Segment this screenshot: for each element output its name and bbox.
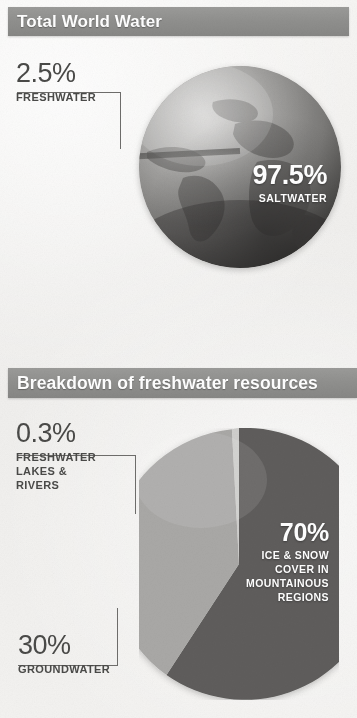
page-title-breakdown-freshwater: Breakdown of freshwater resources xyxy=(8,373,318,394)
page-title-total-world-water: Total World Water xyxy=(8,12,162,32)
callout-freshwater-caption: FRESHWATER xyxy=(16,91,96,105)
callout-groundwater: 30% GROUNDWATER xyxy=(18,632,110,677)
callout-lakes-caption-line2: LAKES & xyxy=(16,465,96,479)
callout-lakes-percent: 0.3% xyxy=(16,420,96,447)
pie-chart-freshwater-breakdown: 70% ICE & SNOW COVER IN MOUNTAINOUS REGI… xyxy=(139,428,339,700)
callout-groundwater-percent: 30% xyxy=(18,632,110,659)
section-total-world-water: Total World Water 2.5% FRESHWATER xyxy=(0,0,357,340)
pie-slices xyxy=(139,428,339,700)
callout-lakes-caption-line3: RIVERS xyxy=(16,479,96,493)
callout-freshwater-percent: 2.5% xyxy=(16,60,96,87)
callout-lakes-caption-line1: FRESHWATER xyxy=(16,451,96,465)
globe-chart-total-world-water: 97.5% SALTWATER xyxy=(139,66,341,268)
header-band-total-world-water: Total World Water xyxy=(8,7,349,36)
header-band-breakdown-freshwater: Breakdown of freshwater resources xyxy=(8,368,357,398)
callout-freshwater: 2.5% FRESHWATER xyxy=(16,60,96,105)
globe-continents xyxy=(139,66,341,268)
callout-lakes-caption: FRESHWATER LAKES & RIVERS xyxy=(16,451,96,492)
callout-groundwater-caption: GROUNDWATER xyxy=(18,663,110,677)
callout-freshwater-lakes-rivers: 0.3% FRESHWATER LAKES & RIVERS xyxy=(16,420,96,492)
globe-sphere xyxy=(139,66,341,268)
